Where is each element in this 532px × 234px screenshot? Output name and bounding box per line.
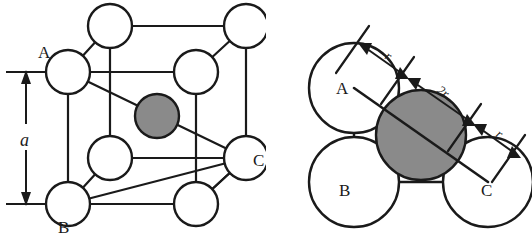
cross-section-panel: r 2r r A B C bbox=[266, 0, 532, 234]
right-vertex-label-b: B bbox=[339, 181, 350, 200]
left-vertex-label-b: B bbox=[58, 218, 69, 234]
left-vertex-label-c: C bbox=[253, 151, 264, 170]
right-vertex-label-c: C bbox=[481, 181, 492, 200]
corner-atom-back-top-right bbox=[224, 4, 266, 48]
corner-atom-front-bottom-right bbox=[174, 182, 218, 226]
corner-atom-front-top-left-a bbox=[46, 50, 90, 94]
right-vertex-label-a: A bbox=[336, 79, 349, 98]
corner-atom-back-top-left bbox=[88, 4, 132, 48]
left-vertex-label-a: A bbox=[38, 43, 51, 62]
arrowhead-r-right-start bbox=[473, 124, 487, 136]
arrowhead-2r-start bbox=[407, 78, 421, 90]
center-atom-shaded bbox=[135, 94, 179, 138]
corner-atom-back-bottom-left bbox=[88, 136, 132, 180]
bcc-unit-cell-panel: a A B C bbox=[0, 0, 266, 234]
lattice-parameter-label: a bbox=[20, 130, 29, 150]
corner-atom-front-top-right bbox=[174, 50, 218, 94]
bcc-structure-figure: a A B C bbox=[0, 0, 532, 234]
